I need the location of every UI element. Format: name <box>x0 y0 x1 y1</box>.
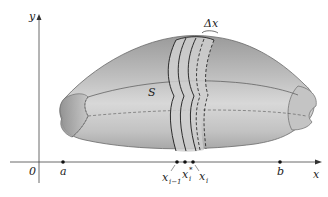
point-x-i-star <box>183 160 187 164</box>
b-label: b <box>277 165 284 178</box>
solid-of-revolution-diagram: Δx S y x 0 a b x i−1 x * i x i <box>0 0 328 197</box>
delta-x-label: Δx <box>203 17 219 30</box>
svg-text:x: x <box>199 170 206 183</box>
x-axis-label: x <box>313 168 320 181</box>
y-axis-arrow-icon <box>37 14 42 20</box>
x-axis-arrow-icon <box>315 160 322 165</box>
svg-text:i: i <box>206 177 208 185</box>
point-x-i <box>191 160 195 164</box>
origin-label: 0 <box>29 165 36 178</box>
solid-label: S <box>148 86 156 99</box>
x-i-minus-1-label: x i−1 <box>162 165 182 186</box>
delta-x-bracket: Δx <box>202 17 219 33</box>
x-i-label: x i <box>195 165 208 185</box>
y-axis-label: y <box>28 10 36 23</box>
svg-text:i: i <box>189 175 191 183</box>
point-b <box>278 160 282 164</box>
svg-text:x: x <box>162 171 169 184</box>
x-i-star-label: x * i <box>182 166 193 183</box>
point-a <box>61 160 65 164</box>
svg-text:i−1: i−1 <box>169 178 182 186</box>
point-x-i-minus-1 <box>175 160 179 164</box>
svg-text:*: * <box>189 166 193 174</box>
a-label: a <box>60 165 67 178</box>
svg-text:x: x <box>182 168 189 181</box>
